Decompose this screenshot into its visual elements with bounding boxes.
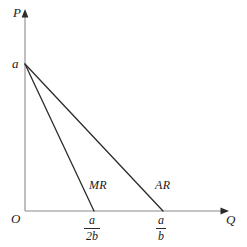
plot-canvas bbox=[0, 0, 247, 247]
q-axis-label: Q bbox=[226, 213, 235, 226]
mr-curve-label: MR bbox=[89, 179, 107, 191]
mr-curve-line bbox=[25, 64, 94, 211]
price-intercept-label: a bbox=[12, 57, 19, 70]
p-axis-arrowhead bbox=[22, 9, 29, 18]
mr-x-intercept-numerator: a bbox=[84, 214, 100, 227]
economics-revenue-diagram: P Q O a MR AR a 2b a b bbox=[0, 0, 247, 247]
mr-x-intercept-denominator: 2b bbox=[84, 230, 100, 243]
mr-x-intercept-fraction: a 2b bbox=[84, 214, 100, 242]
ar-x-intercept-fraction: a b bbox=[156, 214, 166, 242]
ar-x-intercept-denominator: b bbox=[156, 230, 166, 243]
ar-x-intercept-numerator: a bbox=[156, 214, 166, 227]
ar-curve-label: AR bbox=[155, 179, 170, 191]
origin-label: O bbox=[11, 212, 20, 225]
p-axis-label: P bbox=[13, 6, 21, 19]
